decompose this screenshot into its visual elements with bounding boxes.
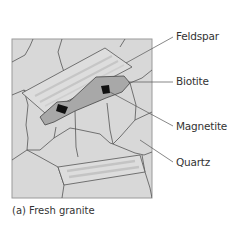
- label-feldspar: Feldspar: [176, 30, 219, 42]
- label-magnetite: Magnetite: [176, 120, 227, 132]
- label-quartz: Quartz: [176, 156, 210, 168]
- figure-caption: (a) Fresh granite: [12, 205, 95, 216]
- label-biotite: Biotite: [176, 75, 209, 87]
